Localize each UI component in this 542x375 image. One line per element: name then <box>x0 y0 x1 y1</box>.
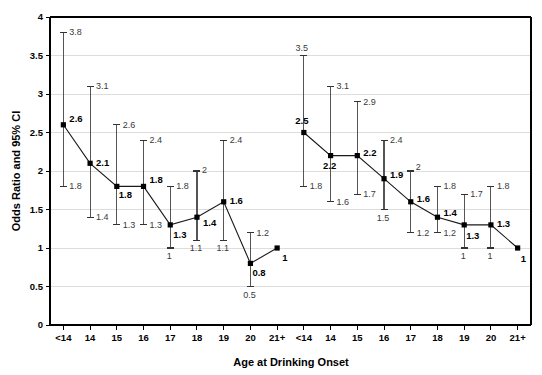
ci-upper-label: 3.1 <box>337 81 350 91</box>
y-tick-label: 3.5 <box>30 50 44 61</box>
x-tick-label: 15 <box>352 332 363 343</box>
y-axis-title: Odds Ratio and 95% CI <box>10 111 22 231</box>
ci-upper-label: 1.7 <box>470 189 483 199</box>
y-tick-label: 1 <box>38 242 44 253</box>
ci-upper-label: 3.1 <box>96 81 109 91</box>
ci-lower-label: 1 <box>487 251 492 261</box>
x-tick-label: 14 <box>325 332 336 343</box>
data-point-marker <box>87 161 92 166</box>
ci-lower-label: 1.8 <box>69 181 82 191</box>
ci-lower-label: 1.3 <box>150 220 163 230</box>
ci-lower-label: 1.4 <box>96 212 109 222</box>
x-tick-label: 19 <box>218 332 229 343</box>
data-point-value-label: 1.4 <box>443 207 457 218</box>
data-point-marker <box>301 130 306 135</box>
data-point-value-label: 1 <box>282 252 288 263</box>
chart-container: 00.511.522.533.54<141415161718192021+<14… <box>0 0 542 375</box>
data-point-marker <box>221 199 226 204</box>
ci-lower-label: 1.3 <box>123 220 136 230</box>
data-point-marker <box>381 176 386 181</box>
x-tick-label: 18 <box>192 332 203 343</box>
ci-upper-label: 3.5 <box>296 43 309 53</box>
axis-labels-group: 00.511.522.533.54<141415161718192021+<14… <box>30 11 527 343</box>
ci-lower-label: 1.1 <box>190 243 203 253</box>
ci-upper-label: 3.8 <box>69 27 82 37</box>
data-point-value-label: 1.6 <box>230 195 243 206</box>
ci-upper-label: 2 <box>416 162 421 172</box>
x-axis-title: Age at Drinking Onset <box>233 356 349 368</box>
data-point-value-label: 0.8 <box>252 267 265 278</box>
x-tick-label: 20 <box>486 332 497 343</box>
ci-upper-label: 1.8 <box>497 181 510 191</box>
y-tick-label: 1.5 <box>30 204 44 215</box>
x-tick-label: 21+ <box>510 332 527 343</box>
data-point-marker <box>248 261 253 266</box>
ci-upper-label: 2.6 <box>123 120 136 130</box>
y-tick-label: 4 <box>38 11 44 22</box>
y-tick-label: 0 <box>38 319 43 330</box>
data-point-value-label: 2.1 <box>96 157 110 168</box>
ci-upper-label: 2.4 <box>150 135 163 145</box>
x-tick-label: 19 <box>459 332 470 343</box>
ci-upper-label: 2.4 <box>230 135 243 145</box>
data-point-value-label: 2.6 <box>69 113 82 124</box>
ci-lower-label: 1.8 <box>310 181 323 191</box>
data-point-value-label: 2.5 <box>295 115 309 126</box>
ci-upper-label: 2 <box>202 165 207 175</box>
x-tick-label: <14 <box>55 332 72 343</box>
ci-lower-label: 1 <box>167 251 172 261</box>
ci-lower-label: 1.1 <box>216 243 229 253</box>
x-tick-label: 18 <box>432 332 443 343</box>
data-point-value-label: 1 <box>521 253 527 264</box>
x-tick-label: 14 <box>85 332 96 343</box>
gridlines-group <box>50 17 531 287</box>
data-point-marker <box>275 245 280 250</box>
ci-lower-label: 1.6 <box>337 197 350 207</box>
data-point-marker <box>435 215 440 220</box>
y-tick-label: 2.5 <box>30 127 44 138</box>
x-tick-label: 16 <box>138 332 149 343</box>
ci-lower-label: 1 <box>461 251 466 261</box>
data-point-value-label: 2.2 <box>323 160 336 171</box>
x-tick-label: 20 <box>245 332 256 343</box>
data-point-value-label: 1.8 <box>119 189 132 200</box>
ci-upper-label: 2.4 <box>390 135 403 145</box>
data-point-marker <box>141 184 146 189</box>
data-point-marker <box>194 215 199 220</box>
x-tick-label: 16 <box>379 332 390 343</box>
x-tick-label: 21+ <box>269 332 286 343</box>
data-point-marker <box>515 245 520 250</box>
data-point-value-label: 1.6 <box>417 193 430 204</box>
odds-ratio-chart: 00.511.522.533.54<141415161718192021+<14… <box>0 0 542 375</box>
y-tick-label: 0.5 <box>30 281 44 292</box>
data-point-value-label: 1.3 <box>497 218 510 229</box>
data-point-value-label: 1.4 <box>203 217 217 228</box>
ci-lower-label: 1.2 <box>443 228 456 238</box>
data-point-marker <box>328 153 333 158</box>
data-point-marker <box>488 222 493 227</box>
x-tick-label: 17 <box>165 332 176 343</box>
ci-lower-label: 1.2 <box>417 228 430 238</box>
x-tick-label: <14 <box>296 332 313 343</box>
ci-upper-label: 1.2 <box>256 228 269 238</box>
data-point-value-label: 1.8 <box>150 174 163 185</box>
data-point-marker <box>408 199 413 204</box>
ci-lower-label: 1.5 <box>377 213 390 223</box>
data-point-marker <box>355 153 360 158</box>
data-point-value-label: 2.2 <box>363 147 376 158</box>
data-point-value-label: 1.3 <box>173 229 186 240</box>
data-point-marker <box>114 184 119 189</box>
data-point-value-label: 1.9 <box>390 169 403 180</box>
ci-lower-label: 1.7 <box>363 189 376 199</box>
data-point-value-label: 1.3 <box>466 230 479 241</box>
ci-lower-label: 0.5 <box>243 290 256 300</box>
x-tick-label: 15 <box>112 332 123 343</box>
data-point-marker <box>462 222 467 227</box>
ci-upper-label: 2.9 <box>363 97 376 107</box>
ci-upper-label: 1.8 <box>176 181 189 191</box>
y-tick-label: 2 <box>38 165 43 176</box>
y-tick-label: 3 <box>38 88 43 99</box>
ci-upper-label: 1.8 <box>443 181 456 191</box>
data-point-marker <box>168 222 173 227</box>
data-point-marker <box>61 122 66 127</box>
